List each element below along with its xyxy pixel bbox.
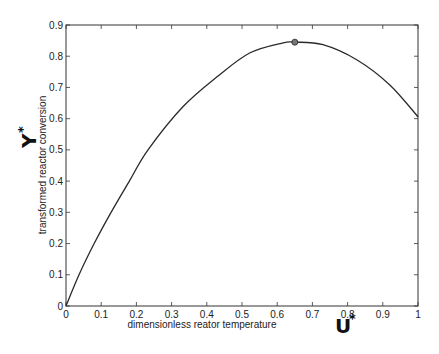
x-symbol-star: *: [349, 311, 356, 326]
y-tick-label: 0.2: [49, 238, 63, 249]
y-tick-label: 0.9: [49, 20, 63, 31]
x-tick-label: 0.7: [305, 309, 319, 320]
peak-marker: [292, 39, 298, 45]
y-tick-label: 0.3: [49, 207, 63, 218]
y-tick-label: 0.4: [49, 176, 63, 187]
y-tick-label: 0.6: [49, 113, 63, 124]
y-tick-label: 0.5: [49, 144, 63, 155]
y-symbol-star: *: [15, 126, 30, 133]
x-tick-label: 0.1: [94, 309, 108, 320]
axes-box: [66, 25, 418, 306]
x-axis-ticks: 00.10.20.30.40.50.60.70.80.91: [63, 25, 421, 320]
y-symbol: Y: [17, 133, 41, 149]
x-axis-label: dimensionless reator temperature: [128, 319, 277, 330]
plot-frame: [66, 25, 418, 306]
x-tick-label: 1: [415, 309, 421, 320]
data-curve: [66, 42, 418, 306]
y-tick-label: 0: [57, 301, 63, 312]
x-symbol-handwritten: U *: [335, 311, 356, 338]
chart: 00.10.20.30.40.50.60.70.80.91 00.10.20.3…: [0, 0, 439, 354]
y-tick-label: 0.1: [49, 269, 63, 280]
y-axis-label: transformed reactor conversion: [37, 96, 48, 234]
x-tick-label: 0.9: [376, 309, 390, 320]
y-tick-label: 0.8: [49, 51, 63, 62]
x-tick-label: 0: [63, 309, 69, 320]
y-tick-label: 0.7: [49, 82, 63, 93]
